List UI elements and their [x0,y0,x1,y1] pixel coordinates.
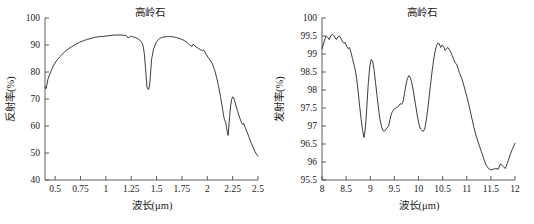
y-tick-label: 96 [308,157,318,167]
y-tick-label: 98 [308,85,318,95]
reflectance-y-axis-title: 反射率(%) [4,76,17,122]
y-tick-label: 90 [31,40,41,50]
reflectance-chart-svg: 405060708090100 0.50.7511.251.51.7522.25… [0,0,267,224]
x-tick-label: 10.5 [434,184,451,194]
y-tick-label: 95.5 [300,175,317,185]
x-tick-label: 2.25 [224,184,241,194]
x-tick-label: 1 [103,184,108,194]
x-tick-label: 12 [510,184,520,194]
x-tick-label: 0.75 [72,184,89,194]
emissivity-plot-frame [322,18,515,180]
reflectance-axis-lines [45,18,258,180]
y-tick-label: 99 [308,49,318,59]
emissivity-x-ticks [322,176,515,180]
y-tick-label: 100 [26,13,41,23]
y-tick-label: 70 [31,94,41,104]
y-tick-label: 40 [31,175,41,185]
reflectance-y-tick-labels: 405060708090100 [26,13,41,185]
x-tick-label: 1.5 [151,184,163,194]
reflectance-x-axis-title: 波长(μm) [132,199,173,212]
reflectance-x-tick-labels: 0.50.7511.251.51.7522.252.5 [49,184,264,194]
x-tick-label: 2.5 [252,184,264,194]
emissivity-x-tick-labels: 88.599.51010.51111.512 [320,184,520,194]
x-tick-label: 8.5 [340,184,352,194]
reflectance-plot-frame [45,18,258,180]
y-tick-label: 99.5 [300,31,317,41]
x-tick-label: 9 [368,184,373,194]
x-tick-label: 8 [320,184,325,194]
emissivity-curve [322,34,515,170]
y-tick-label: 97 [308,121,318,131]
x-tick-label: 11 [462,184,471,194]
y-tick-label: 60 [31,121,41,131]
reflectance-chart-title: 高岭石 [135,6,165,18]
x-tick-label: 1.25 [123,184,140,194]
reflectance-x-ticks [55,176,258,180]
y-tick-label: 97.5 [300,103,317,113]
x-tick-label: 1.75 [174,184,191,194]
x-tick-label: 10 [414,184,424,194]
y-tick-label: 50 [31,148,41,158]
y-tick-label: 98.5 [300,67,317,77]
emissivity-y-tick-labels: 95.59696.59797.59898.59999.5100 [300,13,317,185]
y-tick-label: 100 [303,13,318,23]
chart-panel-emissivity: 95.59696.59797.59898.59999.5100 88.599.5… [267,0,534,224]
chart-panel-reflectance: 405060708090100 0.50.7511.251.51.7522.25… [0,0,267,224]
emissivity-x-axis-title: 波长(μm) [399,199,440,212]
y-tick-label: 96.5 [300,139,317,149]
x-tick-label: 0.5 [49,184,61,194]
y-tick-label: 80 [31,67,41,77]
reflectance-curve [45,35,258,156]
x-tick-label: 11.5 [483,184,500,194]
figure-container: 405060708090100 0.50.7511.251.51.7522.25… [0,0,534,224]
emissivity-axis-lines [322,18,515,180]
x-tick-label: 9.5 [388,184,400,194]
x-tick-label: 2 [205,184,210,194]
reflectance-y-ticks [45,18,49,180]
emissivity-y-axis-title: 发射率(%) [273,76,286,122]
emissivity-chart-title: 高岭石 [407,6,437,18]
emissivity-chart-svg: 95.59696.59797.59898.59999.5100 88.599.5… [267,0,534,224]
